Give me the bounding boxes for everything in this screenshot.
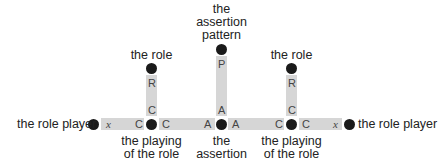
end-label: R bbox=[288, 78, 296, 89]
end-label: C bbox=[302, 119, 310, 130]
end-label: C bbox=[288, 105, 296, 116]
label-right-role-player: the role player bbox=[358, 118, 437, 131]
node-assertion-pattern bbox=[216, 44, 227, 55]
end-label: A bbox=[204, 119, 211, 130]
node-right-role bbox=[286, 63, 297, 74]
node-left-playing bbox=[146, 119, 157, 130]
end-label: x bbox=[106, 119, 111, 130]
label-left-role-player: the role player bbox=[17, 118, 96, 131]
end-label: C bbox=[148, 105, 156, 116]
label-assertion: the assertion bbox=[192, 135, 251, 161]
label-assertion-pattern: the assertion pattern bbox=[192, 3, 251, 42]
node-assertion bbox=[216, 119, 227, 130]
end-label: R bbox=[148, 78, 156, 89]
end-label: C bbox=[135, 119, 143, 130]
label-right-playing: the playing of the role bbox=[260, 135, 323, 161]
label-left-playing: the playing of the role bbox=[120, 135, 183, 161]
end-label: A bbox=[232, 119, 239, 130]
node-left-role bbox=[146, 63, 157, 74]
node-right-role-player bbox=[344, 119, 355, 130]
end-label: C bbox=[275, 119, 283, 130]
end-label: A bbox=[218, 105, 225, 116]
node-right-playing bbox=[286, 119, 297, 130]
end-label: P bbox=[218, 59, 225, 70]
label-left-role: the role bbox=[130, 49, 173, 62]
end-label: x bbox=[333, 119, 338, 130]
label-right-role: the role bbox=[270, 49, 313, 62]
end-label: C bbox=[162, 119, 170, 130]
